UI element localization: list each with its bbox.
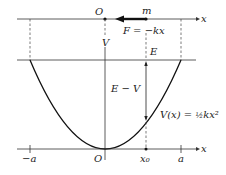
tick-label-minus-a: −a [22,153,36,164]
top-origin-label: O [95,6,103,17]
tick-label-x0: x₀ [140,153,150,164]
force-arrowhead-icon [115,16,124,23]
potential-curve [30,60,181,149]
bottom-axis-label: x [201,143,207,154]
top-axis-arrow-icon [196,17,200,21]
tick-label-a: a [178,153,184,164]
e-minus-v-label: E − V [110,83,142,94]
x0-point [145,148,148,151]
tick-label-origin: O [94,153,102,164]
bottom-axis-arrow-icon [196,147,200,151]
curve-label: V(x) = ½kx² [160,109,219,120]
mass-label: m [142,5,151,16]
v-axis-label: V [102,37,111,48]
energy-label: E [149,46,158,57]
top-axis-label: x [201,13,207,24]
arrow-up-icon [144,61,147,66]
force-label: F = −kx [122,25,165,36]
mass-point [144,17,147,20]
oscillator-diagram: O m x F = −kx V E E − V V(x) = ½kx² −a O… [0,0,226,175]
arrow-down-icon [144,116,147,121]
